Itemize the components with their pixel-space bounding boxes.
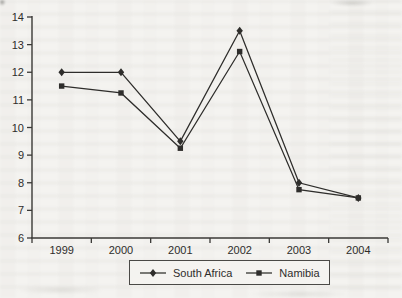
- y-axis-tick-label: 8: [18, 177, 24, 189]
- data-point-namibia-2000: [118, 90, 123, 95]
- y-axis-tick-label: 12: [12, 66, 24, 78]
- y-axis-tick-label: 10: [12, 122, 24, 134]
- series-line-south-africa: [62, 31, 359, 198]
- y-axis-tick-label: 13: [12, 39, 24, 51]
- y-axis-tick-label: 11: [13, 94, 24, 106]
- x-axis-tick-label: 2003: [287, 244, 311, 256]
- legend-label-namibia: Namibia: [279, 267, 319, 279]
- line-chart-canvas: 67891011121314199920002001200220032004: [0, 0, 402, 298]
- x-axis-tick-label: 2000: [109, 244, 133, 256]
- square-legend-glyph: [245, 268, 273, 278]
- x-axis-tick-label: 1999: [49, 244, 73, 256]
- data-point-namibia-1999: [59, 83, 64, 88]
- y-axis-tick-label: 6: [18, 232, 24, 244]
- legend-item-namibia: Namibia: [245, 267, 319, 279]
- legend-marker-shape: [150, 269, 156, 277]
- square-marker-icon: [245, 268, 273, 278]
- data-point-south-africa-2002: [236, 27, 242, 35]
- y-axis-tick-label: 9: [18, 149, 24, 161]
- y-axis-tick-label: 7: [18, 204, 24, 216]
- chart-legend: South Africa Namibia: [129, 260, 330, 285]
- diamond-legend-glyph: [139, 268, 167, 278]
- series-line-namibia: [62, 52, 359, 198]
- legend-marker-shape: [257, 270, 262, 275]
- legend-label-south-africa: South Africa: [173, 267, 232, 279]
- legend-item-south-africa: South Africa: [139, 267, 232, 279]
- x-axis-tick-label: 2004: [346, 244, 370, 256]
- scanned-page: 67891011121314199920002001200220032004 S…: [0, 0, 402, 298]
- data-point-namibia-2001: [178, 146, 183, 151]
- data-point-south-africa-1999: [58, 68, 64, 76]
- data-point-namibia-2004: [356, 195, 361, 200]
- data-point-namibia-2002: [237, 49, 242, 54]
- diamond-marker-icon: [139, 268, 167, 278]
- y-axis-tick-label: 14: [12, 11, 24, 23]
- data-point-namibia-2003: [296, 187, 301, 192]
- x-axis-tick-label: 2001: [168, 244, 192, 256]
- x-axis-tick-label: 2002: [227, 244, 251, 256]
